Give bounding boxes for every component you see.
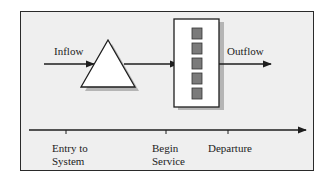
- server-slot-5: [192, 88, 202, 99]
- tick-label-entry-line1: Entry to: [52, 142, 88, 155]
- server-slot-1: [192, 28, 202, 39]
- server-slot-4: [192, 73, 202, 84]
- outflow-label: Outflow: [227, 45, 264, 58]
- tick-label-entry-line2: System: [52, 155, 88, 168]
- tick-label-departure-line1: Departure: [208, 142, 252, 155]
- tick-label-entry: Entry to System: [52, 142, 88, 168]
- tick-label-begin-line2: Service: [152, 155, 185, 168]
- tick-label-departure: Departure: [208, 142, 252, 155]
- server-slot-2: [192, 43, 202, 54]
- tick-label-begin-service: Begin Service: [152, 142, 185, 168]
- inflow-label: Inflow: [54, 45, 83, 58]
- tick-label-begin-line1: Begin: [152, 142, 185, 155]
- server-slot-3: [192, 58, 202, 69]
